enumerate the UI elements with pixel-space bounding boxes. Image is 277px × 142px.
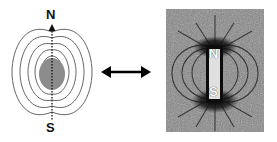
earth-dipole-field-diagram: N S	[0, 0, 104, 142]
double-arrow-icon	[100, 62, 152, 82]
magnet-north-label: N	[209, 47, 218, 60]
equivalence-arrow	[100, 62, 152, 82]
iron-filings-pattern-icon	[166, 9, 264, 132]
south-pole-label: S	[46, 121, 55, 134]
magnet-south-label: S	[209, 85, 218, 98]
bar-magnet-iron-filings-photo: N S	[166, 9, 264, 132]
north-pole-label: N	[46, 8, 55, 21]
